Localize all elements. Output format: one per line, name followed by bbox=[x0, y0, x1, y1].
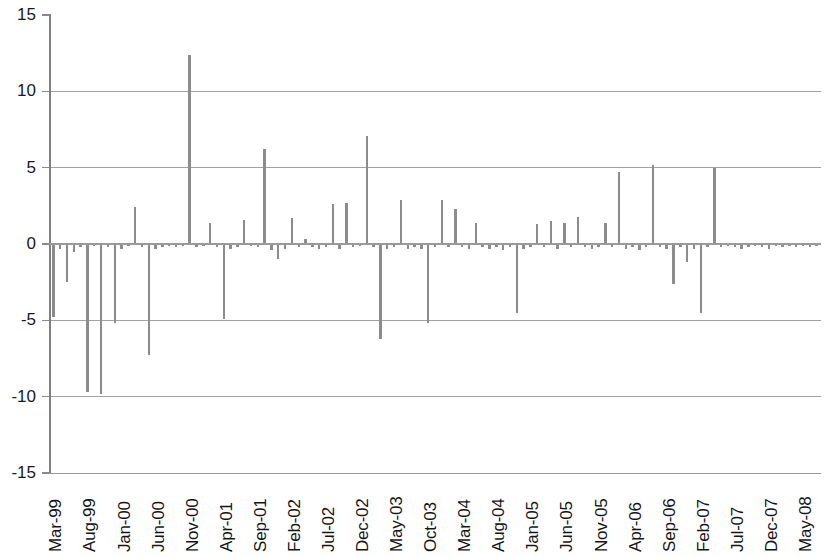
x-axis-tick-label: May-08 bbox=[796, 497, 816, 553]
y-axis-tick bbox=[42, 320, 49, 321]
y-axis-tick-label: 5 bbox=[0, 159, 36, 176]
bar bbox=[604, 223, 606, 244]
x-axis-tick-label: May-03 bbox=[387, 497, 407, 553]
bar bbox=[277, 244, 279, 259]
x-axis-tick-label: Jan-05 bbox=[523, 501, 543, 552]
bar bbox=[700, 244, 702, 313]
x-axis-tick-label: Jul-07 bbox=[728, 507, 748, 552]
y-axis-tick-label: 0 bbox=[0, 235, 36, 252]
y-axis-tick bbox=[42, 243, 49, 244]
x-axis-tick-label: Apr-01 bbox=[217, 502, 237, 552]
bar bbox=[665, 244, 667, 249]
bar bbox=[420, 244, 422, 249]
x-axis-tick-label: Aug-99 bbox=[80, 498, 100, 552]
bar bbox=[386, 244, 388, 249]
bar bbox=[148, 244, 150, 355]
bar bbox=[407, 244, 409, 249]
bar bbox=[441, 200, 443, 244]
x-axis-tick-label: Mar-99 bbox=[46, 499, 66, 552]
bar bbox=[550, 221, 552, 244]
bar bbox=[638, 244, 640, 250]
bar bbox=[672, 244, 674, 284]
y-axis-tick bbox=[42, 91, 49, 92]
bar bbox=[713, 168, 715, 244]
y-axis-tick bbox=[42, 167, 49, 168]
bar bbox=[652, 165, 654, 244]
x-axis-tick-label: Jul-02 bbox=[319, 507, 339, 552]
x-axis-tick-label: Feb-02 bbox=[285, 499, 305, 552]
bar bbox=[284, 244, 286, 249]
x-axis-tick-label: Dec-02 bbox=[353, 498, 373, 552]
bar bbox=[52, 244, 54, 317]
x-axis-tick-label: Feb-07 bbox=[694, 499, 714, 552]
bar bbox=[563, 223, 565, 244]
bar bbox=[154, 244, 156, 249]
bar bbox=[366, 136, 368, 244]
y-axis-tick-label: -15 bbox=[0, 464, 36, 481]
bar bbox=[686, 244, 688, 262]
bar bbox=[59, 244, 61, 249]
x-axis-tick-label: Dec-07 bbox=[762, 498, 782, 552]
bar bbox=[768, 244, 770, 249]
bar bbox=[86, 244, 88, 392]
bar bbox=[100, 244, 102, 394]
bar bbox=[318, 244, 320, 249]
bar bbox=[556, 244, 558, 249]
bar bbox=[73, 244, 75, 252]
bar bbox=[488, 244, 490, 249]
bar bbox=[263, 149, 265, 244]
bar bbox=[625, 244, 627, 249]
bar bbox=[188, 55, 190, 244]
bar bbox=[502, 244, 504, 250]
bar bbox=[522, 244, 524, 249]
bar bbox=[427, 244, 429, 323]
y-axis-tick-label: -5 bbox=[0, 311, 36, 328]
bar bbox=[229, 244, 231, 249]
bar bbox=[209, 223, 211, 244]
bar bbox=[400, 200, 402, 244]
bar bbox=[345, 203, 347, 244]
bar bbox=[243, 220, 245, 244]
bar bbox=[454, 209, 456, 244]
x-axis-tick-label: Mar-04 bbox=[455, 499, 475, 552]
bar bbox=[475, 223, 477, 244]
bar bbox=[66, 244, 68, 282]
bar bbox=[270, 244, 272, 250]
bar bbox=[134, 207, 136, 244]
x-axis-tick-label: Aug-04 bbox=[489, 498, 509, 552]
y-axis-tick-label: -10 bbox=[0, 388, 36, 405]
bar bbox=[114, 244, 116, 323]
y-axis-tick-label: 15 bbox=[0, 6, 36, 23]
bar bbox=[693, 244, 695, 249]
x-axis-tick-label: Jan-00 bbox=[115, 501, 135, 552]
x-axis-tick-label: Nov-05 bbox=[592, 498, 612, 552]
bar-chart: 151050-5-10-15 Mar-99Aug-99Jan-00Jun-00N… bbox=[0, 0, 827, 557]
x-axis-tick-label: Sep-01 bbox=[251, 498, 271, 552]
bar bbox=[223, 244, 225, 319]
x-axis-tick-label: Apr-06 bbox=[626, 502, 646, 552]
bar bbox=[516, 244, 518, 313]
y-axis-tick-label: 10 bbox=[0, 82, 36, 99]
bar bbox=[577, 217, 579, 244]
bar bbox=[379, 244, 381, 339]
x-axis-tick-label: Sep-06 bbox=[660, 498, 680, 552]
x-axis-tick-label: Jun-00 bbox=[149, 501, 169, 552]
x-axis-tick-label: Jun-05 bbox=[557, 501, 577, 552]
y-axis-tick bbox=[42, 396, 49, 397]
bar bbox=[740, 244, 742, 249]
y-axis-tick bbox=[42, 472, 49, 473]
bar bbox=[332, 204, 334, 244]
zero-line bbox=[49, 243, 821, 244]
bar bbox=[291, 218, 293, 244]
y-axis-tick bbox=[42, 14, 49, 15]
bar bbox=[536, 224, 538, 244]
bar bbox=[468, 244, 470, 249]
bar bbox=[338, 244, 340, 249]
bar bbox=[618, 172, 620, 244]
x-axis-tick-label: Oct-03 bbox=[421, 502, 441, 552]
bar bbox=[591, 244, 593, 249]
x-axis-tick-label: Nov-00 bbox=[183, 498, 203, 552]
bar bbox=[120, 244, 122, 249]
